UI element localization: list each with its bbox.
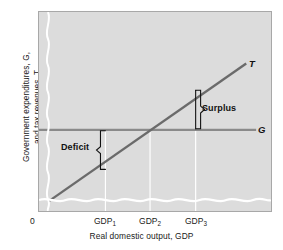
x-tick-gdp2-text: GDP (139, 216, 157, 226)
x-tick-gdp1: GDP1 (94, 216, 116, 226)
t-line-label: T (249, 58, 255, 69)
x-tick-gdp2-sub: 2 (158, 220, 162, 227)
x-tick-gdp1-sub: 1 (112, 220, 116, 227)
y-axis-title-line1: Government expenditures, G, (21, 12, 32, 202)
y-axis-break-wave (47, 12, 49, 211)
origin-label: 0 (30, 216, 35, 226)
deficit-annotation-label: Deficit (61, 142, 89, 152)
x-tick-gdp3: GDP3 (185, 216, 207, 226)
x-axis-break-wave (39, 199, 271, 202)
x-tick-gdp3-text: GDP (185, 216, 203, 226)
x-tick-gdp3-sub: 3 (203, 220, 207, 227)
x-axis-ticks: GDP1 GDP2 GDP3 (38, 216, 272, 230)
budget-balance-chart: Government expenditures, G, and tax reve… (0, 0, 283, 250)
surplus-annotation-label: Surplus (202, 103, 236, 113)
gridlines (105, 130, 195, 211)
t-line (49, 63, 246, 201)
x-tick-gdp2: GDP2 (139, 216, 161, 226)
x-axis-title: Real domestic output, GDP (0, 231, 283, 241)
x-tick-gdp1-text: GDP (94, 216, 112, 226)
plot-area (38, 11, 272, 212)
g-line-label: G (258, 124, 265, 135)
